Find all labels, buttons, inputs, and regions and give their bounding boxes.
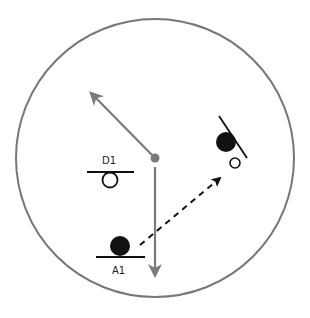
player-d1: D1 <box>87 155 134 188</box>
diagram-canvas: D1 A1 <box>0 0 310 318</box>
player-a1: A1 <box>96 236 145 276</box>
player-right-solid-marker <box>216 132 236 152</box>
player-right-solid <box>216 116 247 158</box>
label-a1: A1 <box>112 265 125 276</box>
player-d1-marker <box>103 173 118 188</box>
center-point <box>151 154 160 163</box>
up-left-arrow <box>92 94 152 155</box>
player-right-open-marker <box>230 158 240 168</box>
label-d1: D1 <box>102 155 116 166</box>
pass-arrow <box>140 178 220 245</box>
player-a1-marker <box>110 236 130 256</box>
